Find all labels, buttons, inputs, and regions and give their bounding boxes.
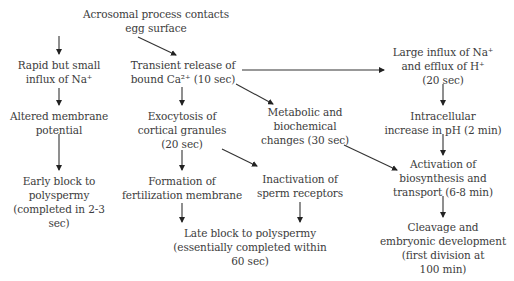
node-biosynthesis: Activation of biosynthesis and transport… <box>383 157 503 199</box>
node-text: biosynthesis and <box>383 171 503 185</box>
node-text: Intracellular <box>383 109 503 123</box>
node-text: biochemical <box>250 119 360 133</box>
node-text: 100 min) <box>378 262 508 276</box>
node-late-block: Late block to polyspermy (essentially co… <box>170 226 330 268</box>
node-text: bound Ca²⁺ (10 sec) <box>128 72 238 86</box>
node-text: Inactivation of <box>245 172 355 186</box>
node-text: (first division at <box>378 248 508 262</box>
node-text: transport (6-8 min) <box>383 185 503 199</box>
node-text: changes (30 sec) <box>250 133 360 147</box>
node-early-block: Early block to polyspermy (completed in … <box>4 174 114 230</box>
node-exocytosis: Exocytosis of cortical granules (20 sec) <box>127 109 237 151</box>
node-text: Rapid but small <box>4 58 114 72</box>
node-start: Acrosomal process contacts egg surface <box>56 7 256 35</box>
node-ca-release: Transient release of bound Ca²⁺ (10 sec) <box>128 58 238 86</box>
node-text: sperm receptors <box>245 186 355 200</box>
arrow-ca-to-metabolic <box>236 84 273 104</box>
node-text: Metabolic and <box>250 105 360 119</box>
node-na-large: Large influx of Na⁺ and efflux of H⁺ (20… <box>383 45 503 87</box>
node-text: cortical granules <box>127 123 237 137</box>
node-text: 60 sec) <box>170 254 330 268</box>
node-text: potential <box>4 123 114 137</box>
node-fert-membrane: Formation of fertilization membrane <box>122 174 242 202</box>
node-text: (completed in 2-3 <box>4 202 114 216</box>
node-text: fertilization membrane <box>122 188 242 202</box>
node-text: sec) <box>4 216 114 230</box>
node-text: polyspermy <box>4 188 114 202</box>
arrow-start-to-ca-release <box>138 37 176 55</box>
node-metabolic: Metabolic and biochemical changes (30 se… <box>250 105 360 147</box>
node-ph: Intracellular increase in pH (2 min) <box>383 109 503 137</box>
node-text: Exocytosis of <box>127 109 237 123</box>
node-text: Transient release of <box>128 58 238 72</box>
node-text: and efflux of H⁺ <box>383 59 503 73</box>
node-text: Activation of <box>383 157 503 171</box>
node-text: Late block to polyspermy <box>170 226 330 240</box>
arrow-exocytosis-to-inactivation <box>222 149 257 166</box>
node-text: Altered membrane <box>4 109 114 123</box>
node-text: egg surface <box>56 21 256 35</box>
node-text: Acrosomal process contacts <box>56 7 256 21</box>
node-inactivation: Inactivation of sperm receptors <box>245 172 355 200</box>
node-text: Formation of <box>122 174 242 188</box>
node-text: Cleavage and <box>378 220 508 234</box>
node-text: (20 sec) <box>383 73 503 87</box>
node-text: Early block to <box>4 174 114 188</box>
node-text: Large influx of Na⁺ <box>383 45 503 59</box>
node-text: increase in pH (2 min) <box>383 123 503 137</box>
node-membrane: Altered membrane potential <box>4 109 114 137</box>
node-text: influx of Na⁺ <box>4 72 114 86</box>
node-na-small: Rapid but small influx of Na⁺ <box>4 58 114 86</box>
node-cleavage: Cleavage and embryonic development (firs… <box>378 220 508 276</box>
node-text: (20 sec) <box>127 137 237 151</box>
node-text: embryonic development <box>378 234 508 248</box>
node-text: (essentially completed within <box>170 240 330 254</box>
